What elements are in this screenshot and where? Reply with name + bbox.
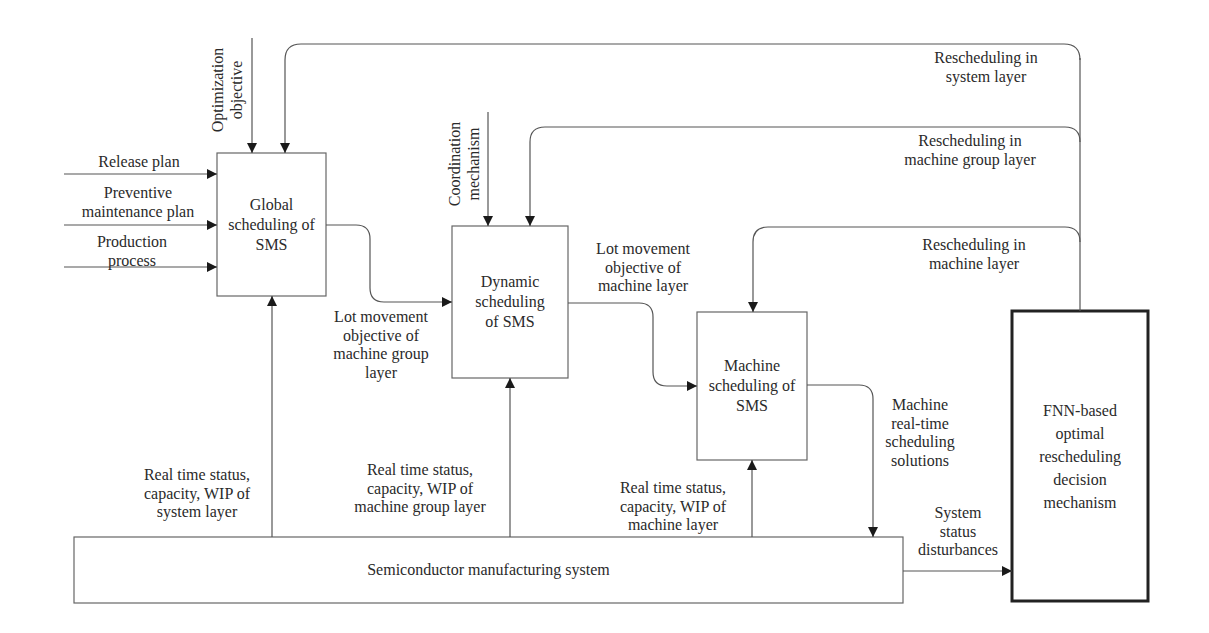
machine-solutions-connector [807, 385, 873, 537]
coordination-mechanism-label: Coordination mechanism [446, 112, 483, 216]
sms-label: Semiconductor manufacturing system [74, 537, 903, 603]
status-system-label: Real time status, capacity, WIP of syste… [127, 466, 267, 522]
lot-mg-label: Lot movement objective of machine group … [320, 308, 442, 382]
feedback-system-label: Rescheduling in system layer [911, 49, 1061, 86]
lot-m-connector [568, 303, 697, 386]
feedback-m-label: Rescheduling in machine layer [899, 236, 1049, 273]
fnn-label: FNN-based optimal rescheduling decision … [1012, 311, 1148, 601]
pm-plan-label: Preventive maintenance plan [58, 184, 218, 221]
optimization-objective-label: Optimization objective [209, 38, 246, 142]
status-m-label: Real time status, capacity, WIP of machi… [598, 479, 748, 535]
release-plan-label: Release plan [64, 153, 214, 172]
machine-solutions-label: Machine real-time scheduling solutions [874, 396, 966, 470]
disturbances-label: System status disturbances [906, 504, 1010, 560]
status-mg-label: Real time status, capacity, WIP of machi… [334, 461, 506, 517]
dynamic-scheduling-label: Dynamic scheduling of SMS [452, 226, 568, 378]
production-process-label: Production process [64, 233, 200, 270]
global-scheduling-label: Global scheduling of SMS [217, 153, 326, 296]
lot-mg-connector [326, 225, 452, 302]
feedback-mg-label: Rescheduling in machine group layer [880, 132, 1060, 169]
machine-scheduling-label: Machine scheduling of SMS [697, 312, 807, 460]
lot-m-label: Lot movement objective of machine layer [580, 240, 706, 296]
